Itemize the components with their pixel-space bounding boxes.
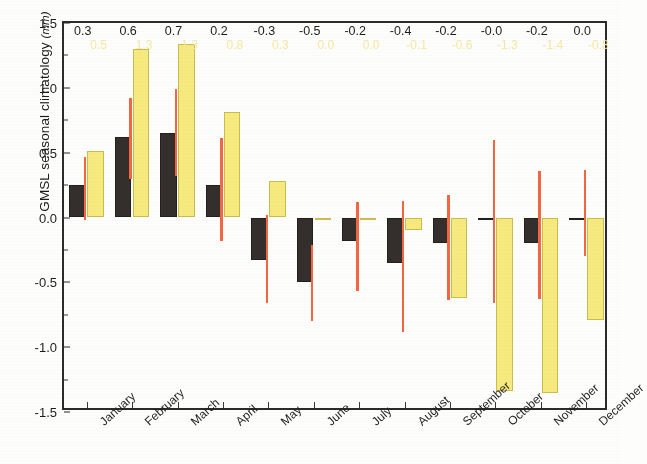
y-axis-tick-label: 0.5	[39, 145, 64, 160]
y-axis-tick-mark	[64, 412, 70, 413]
y-axis-tick-label: 1.5	[39, 16, 64, 31]
y-axis-tick-label: 0.0	[39, 210, 64, 225]
value-label-light: -1.4	[543, 38, 564, 52]
value-label-light: 1.3	[136, 38, 153, 52]
value-label-dark: 0.7	[165, 24, 182, 38]
y-axis-tick-label: 1.0	[39, 80, 64, 95]
value-label-dark: -0.3	[254, 24, 276, 38]
value-label-light: 0.3	[272, 38, 289, 52]
value-label-dark: -0.2	[344, 24, 366, 38]
plot-area: 1.51.00.50.0-0.5-1.0-1.5 0.30.50.61.30.7…	[62, 21, 607, 410]
value-label-light: 0.5	[90, 38, 107, 52]
value-label-dark: 0.6	[119, 24, 136, 38]
value-label-dark: -0.2	[435, 24, 457, 38]
value-label-light: 0.8	[227, 38, 244, 52]
value-label-light: -0.1	[406, 38, 427, 52]
error-bar	[584, 170, 586, 257]
y-axis-title-text: GMSL seasonal climatology	[37, 42, 52, 211]
value-label-light: -0.8	[588, 38, 609, 52]
bar-group	[64, 23, 605, 408]
bar-light	[587, 218, 604, 320]
value-label-light: 0.0	[317, 38, 334, 52]
value-label-dark: -0.5	[299, 24, 321, 38]
y-axis-tick-label: -0.5	[35, 275, 64, 290]
y-axis-tick-label: -1.0	[35, 340, 64, 355]
value-label-dark: 0.0	[574, 24, 591, 38]
y-axis-tick-label: -1.5	[35, 405, 64, 420]
value-label-dark: 0.3	[74, 24, 91, 38]
value-label-dark: 0.2	[210, 24, 227, 38]
value-label-dark: -0.4	[390, 24, 412, 38]
value-label-light: -0.6	[452, 38, 473, 52]
value-label-light: 0.0	[363, 38, 380, 52]
value-label-dark: -0.2	[526, 24, 548, 38]
value-label-light: -1.3	[497, 38, 518, 52]
value-label-dark: -0.0	[481, 24, 503, 38]
value-label-light: 1.3	[181, 38, 198, 52]
